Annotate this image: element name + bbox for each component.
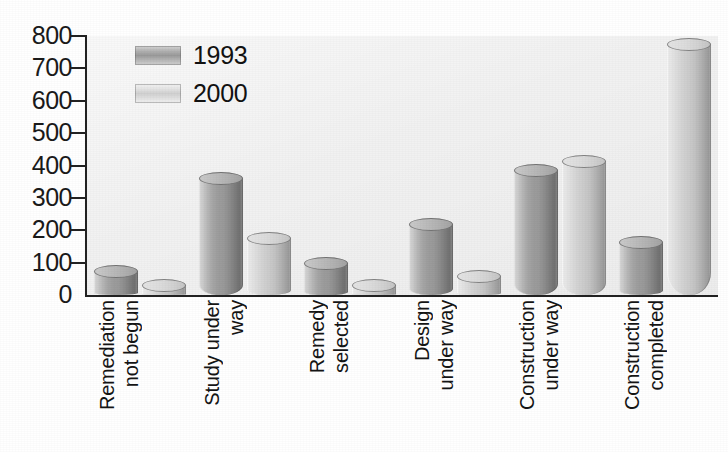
x-category-label-line: not begun <box>120 300 142 387</box>
y-axis-tick-label: 800 <box>32 23 72 48</box>
bar-1993-2 <box>199 178 243 295</box>
x-category-label-5: Constructionunder way <box>516 300 564 450</box>
legend-label: 2000 <box>193 81 247 106</box>
y-axis-line <box>85 35 87 297</box>
y-axis-tick-mark <box>71 132 86 134</box>
bar-1993-5 <box>514 170 558 295</box>
bar-top-outline <box>457 270 501 283</box>
x-axis-category-labels: Remediationnot begunStudy underwayRemedy… <box>0 300 728 452</box>
bar-body <box>514 170 558 295</box>
bar-1993-1 <box>94 271 138 295</box>
legend-item-2000: 2000 <box>135 78 247 108</box>
y-axis-tick-mark <box>71 35 86 37</box>
bar-body <box>409 224 453 295</box>
y-axis-tick-label: 300 <box>32 185 72 210</box>
bar-body <box>199 178 243 295</box>
bar-top-outline <box>619 236 663 249</box>
legend-label: 1993 <box>193 43 247 68</box>
bar-2000-3 <box>352 285 396 295</box>
legend-swatch-2000 <box>135 84 181 103</box>
x-category-label-4: Designunder way <box>411 300 459 450</box>
y-axis-tick-mark <box>71 67 86 69</box>
x-category-label-line: way <box>225 300 247 335</box>
x-category-label-line: Remediation <box>96 300 118 410</box>
y-axis-tick-label: 100 <box>32 250 72 275</box>
y-axis-tick-label: 500 <box>32 120 72 145</box>
x-category-label-6: Constructioncompleted <box>621 300 669 450</box>
bar-1993-3 <box>304 263 348 295</box>
bar-2000-2 <box>247 238 291 295</box>
chart-legend: 19932000 <box>135 40 247 116</box>
bar-chart-figure: 8007006005004003002001000 19932000 Remed… <box>0 0 728 452</box>
y-axis-tick-label: 200 <box>32 217 72 242</box>
y-axis-tick-label: 400 <box>32 153 72 178</box>
y-axis-tick-mark <box>71 165 86 167</box>
x-category-label-1: Remediationnot begun <box>96 300 144 450</box>
y-axis-tick-mark <box>71 100 86 102</box>
bar-1993-6 <box>619 242 663 295</box>
bar-1993-4 <box>409 224 453 295</box>
x-axis-baseline <box>85 295 718 297</box>
bar-body <box>619 242 663 295</box>
x-category-label-line: Remedy <box>306 300 328 373</box>
x-category-label-line: Study under <box>201 300 223 406</box>
x-category-label-line: selected <box>330 300 352 373</box>
y-axis-tick-mark <box>71 229 86 231</box>
bar-2000-4 <box>457 276 501 295</box>
x-category-label-line: completed <box>645 300 667 390</box>
x-category-label-line: Design <box>411 300 433 361</box>
y-axis-labels: 8007006005004003002001000 <box>0 0 78 300</box>
bar-body <box>667 44 711 295</box>
bar-top-outline <box>409 218 453 231</box>
bar-top-outline <box>304 257 348 270</box>
x-category-label-2: Study underway <box>201 300 249 450</box>
x-category-label-line: under way <box>540 300 562 390</box>
bar-body <box>562 161 606 295</box>
bar-top-outline <box>562 155 606 168</box>
bar-body <box>247 238 291 295</box>
x-category-label-3: Remedyselected <box>306 300 354 450</box>
bar-top-outline <box>94 265 138 278</box>
legend-item-1993: 1993 <box>135 40 247 70</box>
x-category-label-line: Construction <box>516 300 538 410</box>
bar-2000-1 <box>142 285 186 295</box>
y-axis-tick-mark <box>71 197 86 199</box>
y-axis-tick-mark <box>71 262 86 264</box>
legend-swatch-1993 <box>135 46 181 65</box>
x-category-label-line: under way <box>435 300 457 390</box>
x-category-label-line: Construction <box>621 300 643 410</box>
y-axis-tick-label: 700 <box>32 55 72 80</box>
bar-2000-6 <box>667 44 711 295</box>
bar-2000-5 <box>562 161 606 295</box>
y-axis-tick-label: 600 <box>32 88 72 113</box>
